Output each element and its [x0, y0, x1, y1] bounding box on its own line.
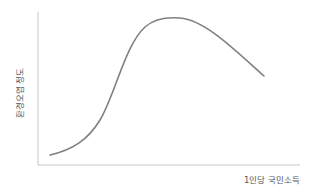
kuznets-curve-chart — [0, 0, 315, 193]
x-axis-label: 1인당 국민소득 — [244, 173, 300, 185]
y-axis-label: 환경오염 정도 — [9, 73, 29, 113]
curve-line — [50, 18, 264, 155]
